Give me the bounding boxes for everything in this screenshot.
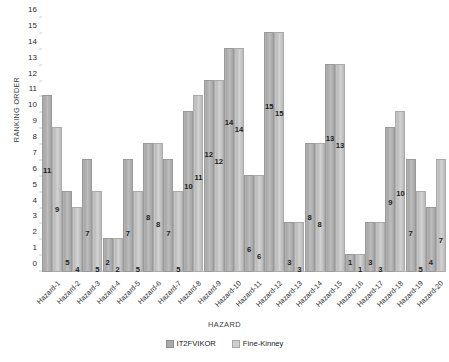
bar: 5: [62, 191, 72, 272]
bar: 1: [355, 254, 365, 272]
bar: 8: [305, 143, 315, 272]
bar-value-label: 9: [388, 199, 392, 207]
bar-value-label: 2: [116, 266, 120, 274]
bar-value-label: 1: [358, 266, 362, 274]
y-axis-tick-mark: [39, 48, 42, 49]
bar: 11: [42, 95, 52, 272]
y-axis-title: RANKING ORDER: [12, 50, 21, 170]
bar: 13: [325, 64, 335, 272]
bar: 15: [264, 32, 274, 272]
y-axis-tick-label: 1: [33, 243, 37, 252]
bar-value-label: 10: [184, 183, 192, 191]
bar: 7: [82, 159, 92, 272]
legend-swatch-icon: [166, 340, 174, 348]
bar-value-label: 5: [176, 266, 180, 274]
y-axis-tick-label: 7: [33, 147, 37, 156]
y-axis-tick-mark: [39, 32, 42, 33]
y-axis-tick-label: 16: [28, 5, 37, 14]
bar: 8: [143, 143, 153, 272]
bar-value-label: 14: [235, 126, 243, 134]
bar-value-label: 12: [214, 158, 222, 166]
bar-group: 1313: [325, 64, 345, 272]
bar-group: 33: [284, 222, 304, 272]
bar: 12: [214, 80, 224, 273]
legend-item[interactable]: IT2FVIKOR: [166, 339, 216, 348]
bar-value-label: 10: [396, 190, 404, 198]
bar-value-label: 8: [308, 214, 312, 222]
y-axis-tick-label: 4: [33, 195, 37, 204]
bar-value-label: 15: [265, 103, 273, 111]
bar: 4: [426, 207, 436, 273]
bar-value-label: 13: [336, 142, 344, 150]
bar-value-label: 7: [409, 230, 413, 238]
legend-item[interactable]: Fine-Kinney: [232, 339, 284, 348]
y-axis-tick-label: 0: [33, 259, 37, 268]
bar: 7: [163, 159, 173, 272]
bar-value-label: 6: [247, 246, 251, 254]
bar: 9: [385, 127, 395, 272]
bar-group: 75: [406, 159, 426, 272]
y-axis-tick-label: 11: [29, 84, 37, 93]
x-axis-tick-labels: Hazard-1Hazard-2Hazard-3Hazard-4Hazard-5…: [42, 274, 446, 318]
bar-group: 1212: [204, 80, 224, 273]
y-axis-tick-label: 15: [28, 20, 37, 29]
bar-group: 1515: [264, 32, 284, 272]
bar-value-label: 8: [318, 221, 322, 229]
bar-value-label: 7: [166, 230, 170, 238]
bar-value-label: 3: [287, 259, 291, 267]
bar: 4: [72, 207, 82, 273]
bar-group: 33: [365, 222, 385, 272]
bar-group: 75: [163, 159, 183, 272]
bar: 13: [335, 64, 345, 272]
bar: 14: [224, 48, 234, 272]
bar: 2: [113, 238, 123, 272]
bar: 7: [123, 159, 133, 272]
bar-value-label: 7: [126, 230, 130, 238]
bar-value-label: 6: [257, 253, 261, 261]
bar: 12: [204, 80, 214, 273]
bar-value-label: 5: [419, 266, 423, 274]
bar: 3: [284, 222, 294, 272]
y-axis-tick-mark: [39, 80, 42, 81]
bar-value-label: 11: [43, 167, 51, 175]
y-axis-tick-label: 13: [28, 52, 37, 61]
bar-value-label: 3: [297, 266, 301, 274]
bar-group: 75: [123, 159, 143, 272]
bar: 8: [153, 143, 163, 272]
bar-group: 119: [42, 95, 62, 272]
bar-chart: RANKING ORDER 01234567891011121314151611…: [0, 0, 449, 362]
bar-value-label: 1: [348, 259, 352, 267]
y-axis-tick-mark: [39, 64, 42, 65]
bar: 5: [133, 191, 143, 272]
bar: 7: [406, 159, 416, 272]
bar-value-label: 12: [204, 151, 212, 159]
bar: 6: [244, 175, 254, 272]
plot-area: 0123456789101112131415161195475227588751…: [42, 18, 446, 272]
cropped-title-strip: [0, 0, 449, 5]
bar: 15: [274, 32, 284, 272]
bar-value-label: 8: [146, 214, 150, 222]
bar-group: 910: [385, 111, 405, 272]
bar-group: 88: [305, 143, 325, 272]
bar: 6: [254, 175, 264, 272]
bar-value-label: 3: [368, 259, 372, 267]
x-axis-title: HAZARD: [0, 320, 449, 329]
bar: 14: [234, 48, 244, 272]
chart-legend: IT2FVIKORFine-Kinney: [0, 339, 449, 348]
bar-group: 1414: [224, 48, 244, 272]
y-axis-tick-label: 12: [28, 68, 37, 77]
bar: 8: [315, 143, 325, 272]
bar-value-label: 7: [85, 230, 89, 238]
bar-value-label: 5: [136, 266, 140, 274]
bar: 2: [103, 238, 113, 272]
y-axis-tick-label: 9: [33, 116, 37, 125]
y-axis-tick-label: 3: [33, 211, 37, 220]
y-axis-tick-label: 6: [33, 163, 37, 172]
bar: 5: [173, 191, 183, 272]
y-axis-tick-label: 8: [33, 132, 37, 141]
bar-value-label: 5: [65, 259, 69, 267]
bar: 5: [416, 191, 426, 272]
bar-value-label: 4: [429, 259, 433, 267]
y-axis-tick-label: 14: [28, 36, 37, 45]
bar-group: 47: [426, 159, 446, 272]
